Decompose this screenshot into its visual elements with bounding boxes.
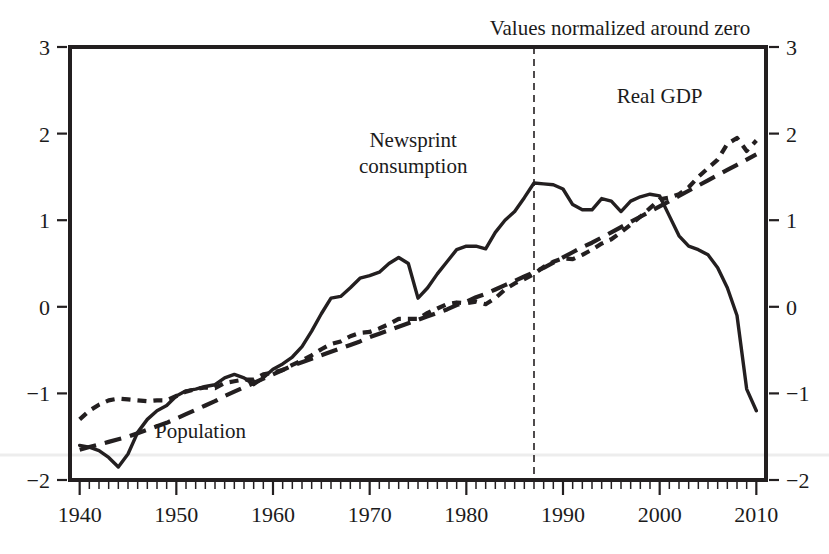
y-tick-label-right: −2 [786,468,809,493]
y-tick-label-right: 3 [786,35,797,60]
chart-background [0,0,829,554]
x-tick-label: 1990 [541,502,585,527]
newsprint-consumption-label: consumption [359,154,468,178]
chart-figure: Values normalized around zero Newsprintc… [0,0,829,554]
x-tick-label: 2010 [734,502,778,527]
y-tick-label-left: 3 [39,35,50,60]
y-tick-label-left: 2 [39,122,50,147]
y-tick-label-right: 2 [786,122,797,147]
x-tick-label: 2000 [638,502,682,527]
chart-title: Values normalized around zero [490,16,751,40]
x-tick-label: 1950 [154,502,198,527]
x-tick-label: 1960 [251,502,295,527]
line-chart-svg: Values normalized around zero Newsprintc… [0,0,829,554]
y-tick-label-right: −1 [786,381,809,406]
y-tick-label-left: −1 [27,381,50,406]
population-label: Population [155,419,247,443]
real-gdp-label: Real GDP [617,84,703,108]
y-tick-label-left: 0 [39,295,50,320]
y-tick-label-left: −2 [27,468,50,493]
x-tick-label: 1980 [444,502,488,527]
newsprint-consumption-label: Newsprint [369,128,457,152]
y-tick-label-left: 1 [39,208,50,233]
y-tick-label-right: 1 [786,208,797,233]
x-tick-label: 1940 [58,502,102,527]
x-tick-label: 1970 [348,502,392,527]
chart-title-group: Values normalized around zero [490,16,751,40]
y-tick-label-right: 0 [786,295,797,320]
